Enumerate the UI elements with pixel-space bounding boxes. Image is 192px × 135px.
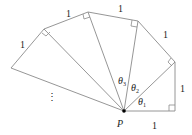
right-angle-marker-2 xyxy=(168,58,172,66)
edge-label-6: 1 xyxy=(20,39,25,50)
right-angle-markers xyxy=(42,14,175,111)
edge-label-5: 1 xyxy=(66,8,71,19)
ray-3 xyxy=(124,21,138,111)
edge-label-2: 1 xyxy=(180,83,185,94)
right-angle-marker-1 xyxy=(169,105,175,111)
angle-label-theta1: θ1 xyxy=(138,96,146,108)
ray-4 xyxy=(88,12,124,111)
ray-6 xyxy=(11,68,124,111)
angle-label-theta2: θ2 xyxy=(131,82,139,94)
rays xyxy=(11,12,175,111)
point-p-label: P xyxy=(116,118,123,129)
edge-label-1: 1 xyxy=(152,120,157,131)
triangle-spiral-diagram: P 1 1 1 1 1 1 θ1 θ2 θ3 ⋮ xyxy=(0,0,192,135)
angle-label-theta3: θ3 xyxy=(118,75,126,87)
point-p xyxy=(122,109,126,113)
edge-label-3: 1 xyxy=(163,29,168,40)
edge-label-4: 1 xyxy=(118,3,123,14)
continuation-dots: ⋮ xyxy=(47,91,57,102)
